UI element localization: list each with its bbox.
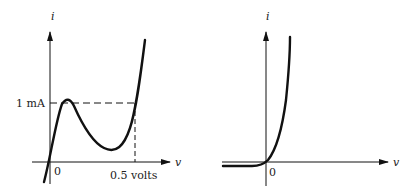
left-figure: i v 0 1 mA 0.5 volts xyxy=(16,10,182,184)
right-figure: i v 0 xyxy=(222,10,400,186)
left-current-marker-label: 1 mA xyxy=(16,97,46,110)
left-characteristic-curve xyxy=(44,40,145,182)
right-y-axis-label: i xyxy=(266,10,270,23)
left-voltage-marker-label: 0.5 volts xyxy=(110,169,158,182)
right-origin-label: 0 xyxy=(269,166,276,179)
right-x-axis-label: v xyxy=(393,156,400,169)
right-characteristic-curve xyxy=(223,37,290,166)
diagram-canvas: i v 0 1 mA 0.5 volts i v 0 xyxy=(0,0,408,194)
left-x-axis-label: v xyxy=(175,156,182,169)
left-y-axis-label: i xyxy=(51,10,55,23)
left-origin-label: 0 xyxy=(54,165,61,178)
